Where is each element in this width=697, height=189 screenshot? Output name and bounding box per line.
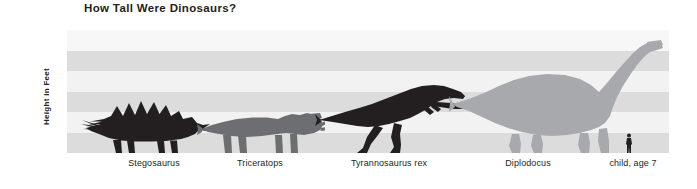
triceratops-silhouette [197, 112, 325, 153]
dinosaur-height-chart: How Tall Were Dinosaurs? Height in Feet … [0, 0, 697, 189]
x-label-tyrannosaurus-rex: Tyrannosaurus rex [351, 158, 427, 168]
stegosaurus-silhouette [81, 94, 211, 153]
child-silhouette [623, 133, 635, 154]
chart-title: How Tall Were Dinosaurs? [84, 2, 236, 14]
x-label-diplodocus: Diplodocus [505, 158, 551, 168]
x-label-child-age-7: child, age 7 [609, 158, 656, 168]
plot-area: 24 20 16 12 8 4 0 [67, 30, 669, 153]
tyrannosaurus-rex-silhouette [315, 81, 467, 153]
x-label-stegosaurus: Stegosaurus [128, 158, 180, 168]
y-axis-title: Height in Feet [42, 42, 51, 152]
x-label-triceratops: Triceratops [237, 158, 283, 168]
